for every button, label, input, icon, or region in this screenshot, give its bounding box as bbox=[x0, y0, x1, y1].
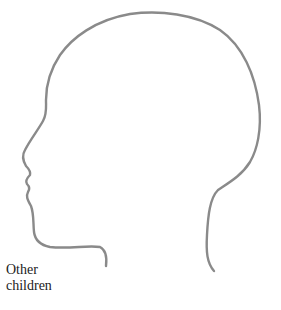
figure-caption: Other children bbox=[6, 262, 52, 294]
caption-line-2: children bbox=[6, 278, 52, 294]
head-profile-figure: Other children bbox=[0, 0, 281, 310]
caption-line-1: Other bbox=[6, 262, 52, 278]
head-contour-line bbox=[23, 13, 260, 271]
